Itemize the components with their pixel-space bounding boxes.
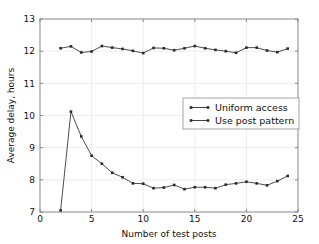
series-marker: [266, 49, 269, 52]
series-marker: [276, 180, 279, 183]
legend-marker: [190, 106, 193, 109]
series-marker: [152, 47, 155, 50]
y-tick-label: 11: [24, 79, 35, 89]
series-marker: [173, 184, 176, 187]
series-marker: [235, 182, 238, 185]
chart-figure: 789101112130510152025 Number of test pos…: [0, 0, 319, 244]
series-marker: [59, 209, 62, 212]
series-marker: [121, 176, 124, 179]
series-marker: [111, 46, 114, 49]
legend-label: Uniform access: [215, 102, 288, 113]
series-marker: [224, 183, 227, 186]
series-marker: [183, 47, 186, 50]
y-axis-title: Average delay, hours: [6, 67, 16, 163]
series-marker: [194, 45, 197, 48]
y-tick-label: 13: [24, 14, 35, 24]
series-marker: [142, 182, 145, 185]
series-marker: [142, 52, 145, 55]
legend-marker: [207, 119, 210, 122]
x-axis-title: Number of test posts: [122, 229, 217, 239]
x-tick-label: 25: [292, 214, 303, 224]
series-marker: [214, 49, 217, 52]
series-marker: [183, 188, 186, 191]
series-marker: [152, 187, 155, 190]
series-marker: [276, 51, 279, 54]
x-tick-label: 15: [189, 214, 200, 224]
x-tick-label: 20: [241, 214, 253, 224]
series-marker: [132, 50, 135, 53]
series-marker: [163, 47, 166, 50]
chart-canvas: 789101112130510152025 Number of test pos…: [0, 0, 319, 244]
series-marker: [214, 187, 217, 190]
series-marker: [101, 162, 104, 165]
legend-marker: [190, 119, 193, 122]
series-marker: [90, 50, 93, 53]
series-marker: [235, 51, 238, 54]
series-marker: [80, 135, 83, 138]
y-tick-label: 12: [24, 46, 35, 56]
series-marker: [224, 50, 227, 53]
series-marker: [173, 49, 176, 52]
legend-label: Use post pattern: [215, 115, 294, 126]
series-marker: [204, 47, 207, 50]
series-marker: [194, 186, 197, 189]
x-tick-label: 0: [37, 214, 43, 224]
y-tick-label: 8: [29, 175, 35, 185]
series-marker: [111, 171, 114, 174]
series-marker: [245, 46, 248, 49]
series-marker: [286, 175, 289, 178]
x-tick-label: 10: [137, 214, 149, 224]
series-marker: [286, 47, 289, 50]
series-marker: [121, 48, 124, 51]
y-tick-label: 10: [24, 111, 36, 121]
series-marker: [90, 154, 93, 157]
series-marker: [255, 182, 258, 185]
series-marker: [101, 45, 104, 48]
y-tick-label: 9: [29, 143, 35, 153]
series-marker: [59, 47, 62, 50]
series-marker: [266, 184, 269, 187]
series-marker: [80, 51, 83, 54]
legend-marker: [207, 106, 210, 109]
x-tick-label: 5: [89, 214, 95, 224]
legend-layer[interactable]: Uniform accessUse post pattern: [183, 98, 299, 129]
series-marker: [255, 46, 258, 49]
series-marker: [70, 45, 73, 48]
y-tick-label: 7: [29, 207, 35, 217]
series-marker: [245, 180, 248, 183]
series-marker: [163, 186, 166, 189]
series-marker: [70, 110, 73, 113]
series-marker: [204, 186, 207, 189]
series-marker: [132, 182, 135, 185]
